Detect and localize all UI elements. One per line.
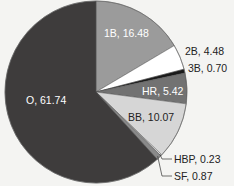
label-hbp: HBP, 0.23 bbox=[174, 153, 221, 165]
leader-lines bbox=[158, 154, 172, 176]
label-1b: 1B, 16.48 bbox=[104, 27, 149, 39]
label-o: O, 61.74 bbox=[26, 94, 66, 106]
label-bb: BB, 10.07 bbox=[128, 111, 174, 123]
label-3b: 3B, 0.70 bbox=[188, 62, 227, 74]
label-sf: SF, 0.87 bbox=[174, 170, 213, 182]
label-hr: HR, 5.42 bbox=[142, 85, 184, 97]
label-2b: 2B, 4.48 bbox=[185, 45, 224, 57]
pie-chart: 1B, 16.48 2B, 4.48 3B, 0.70 HR, 5.42 BB,… bbox=[0, 0, 234, 186]
